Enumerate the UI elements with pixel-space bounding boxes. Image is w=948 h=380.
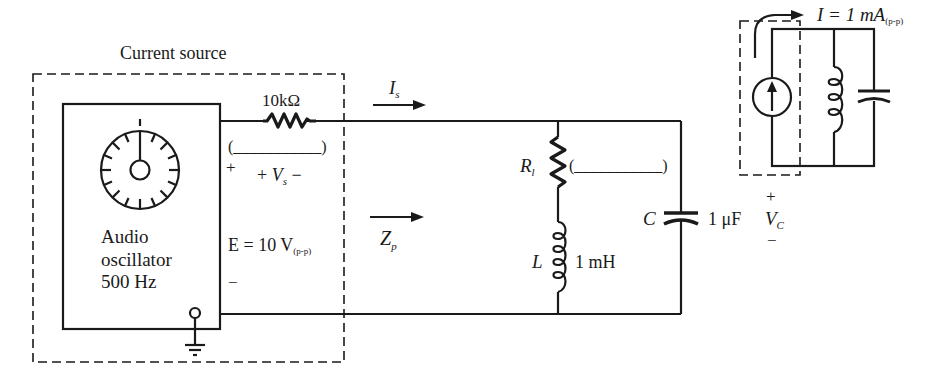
oscillator-label-1: Audio [101,226,149,247]
is-label: Is [388,77,400,100]
c-value: 1 μF [708,209,741,229]
vc-minus: − [767,231,777,250]
zp-label: Zp [380,227,397,252]
inset-equivalent-circuit [740,10,890,175]
c-symbol: C [643,208,656,229]
vc-label: VC [765,208,785,231]
inset-current-label: I = 1 mA(p-p) [816,4,903,26]
inset-current-arrowhead [791,10,804,20]
emf-label: E = 10 V(p-p) [228,235,311,256]
l-value: 1 mH [575,252,616,272]
circuit-diagram: Current source Audio oscillator 500 Hz [0,0,948,380]
vs-label: + Vs − [257,165,302,187]
vc-plus: + [766,187,776,206]
is-arrow-icon [373,100,426,110]
series-resistor-icon [263,114,316,127]
oscillator-label-2: oscillator [101,249,172,270]
source-minus: − [228,273,238,292]
zp-arrow-icon [370,212,424,222]
ground-icon [185,308,205,355]
audio-oscillator-box [63,104,220,329]
inductor-icon [554,222,566,292]
source-plus: + [226,158,236,177]
coil-resistance-icon [551,137,565,187]
oscillator-label-3: 500 Hz [101,271,156,292]
vs-blank-field: (___________) [228,138,327,156]
current-source-title: Current source [120,43,226,63]
series-resistor-value: 10kΩ [262,91,300,110]
rl-blank-field: (___________) [569,157,668,175]
inset-inductor-icon [829,67,843,132]
l-symbol: L [531,251,543,272]
dial-icon [101,119,179,209]
rl-label: Rl [519,155,535,178]
